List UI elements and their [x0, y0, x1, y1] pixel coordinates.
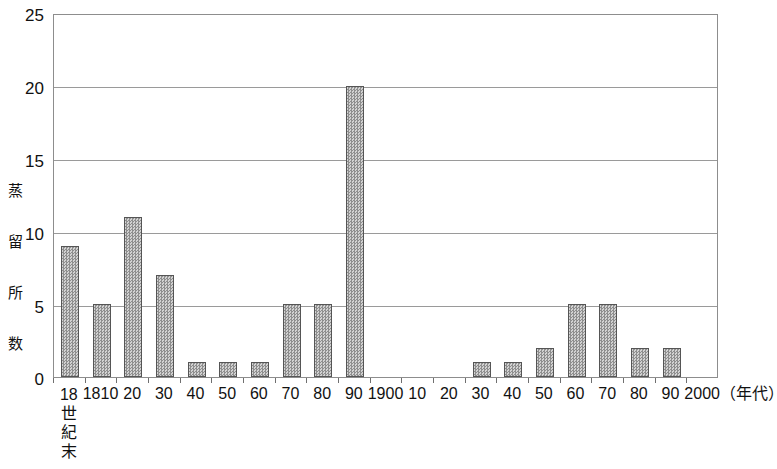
y-axis-tick-label: 25	[4, 7, 44, 24]
x-axis-tick	[401, 378, 402, 383]
bar	[599, 304, 617, 377]
bar	[631, 348, 649, 377]
x-axis-tick-label-line: 末	[46, 442, 92, 461]
x-axis-tick	[433, 378, 434, 383]
x-axis-tick	[528, 378, 529, 383]
x-axis-tick	[243, 378, 244, 383]
bar	[61, 246, 79, 377]
bar	[504, 362, 522, 377]
x-axis-tick	[496, 378, 497, 383]
x-axis-tick	[180, 378, 181, 383]
bar	[93, 304, 111, 377]
x-axis-tick	[306, 378, 307, 383]
x-axis-tick	[623, 378, 624, 383]
x-axis-unit-label: （年代）	[720, 385, 777, 403]
x-axis-tick	[116, 378, 117, 383]
x-axis-tick-label-line: 世	[46, 404, 92, 423]
y-axis-tick-label: 0	[4, 371, 44, 388]
x-axis-tick	[591, 378, 592, 383]
bar	[188, 362, 206, 377]
x-axis-tick	[686, 378, 687, 383]
y-axis-tick-label: 15	[4, 153, 44, 170]
bar	[473, 362, 491, 377]
y-axis-title: 蒸 留 所 数	[4, 148, 26, 386]
bar	[251, 362, 269, 377]
bar	[124, 217, 142, 377]
y-axis-tick-label: 5	[4, 299, 44, 316]
x-axis-tick	[53, 378, 54, 383]
bar	[536, 348, 554, 377]
x-axis-tick	[211, 378, 212, 383]
bar	[156, 275, 174, 377]
y-axis-tick-label: 10	[4, 226, 44, 243]
bar	[219, 362, 237, 377]
bar	[314, 304, 332, 377]
y-axis-title-char: 数	[4, 335, 26, 352]
y-axis-tick-label: 20	[4, 80, 44, 97]
x-axis-tick	[338, 378, 339, 383]
x-axis-tick	[148, 378, 149, 383]
bar	[346, 86, 364, 377]
bar	[663, 348, 681, 377]
x-axis-tick	[560, 378, 561, 383]
y-axis-title-char: 蒸	[4, 182, 26, 199]
x-axis-tick	[655, 378, 656, 383]
bar	[283, 304, 301, 377]
bar-chart: 蒸 留 所 数 25 20 15 10 5 0 18世紀末18102030405…	[0, 0, 777, 469]
x-axis-tick-label: 2000	[679, 385, 725, 403]
bars-layer	[54, 15, 717, 377]
bar	[568, 304, 586, 377]
x-axis-tick	[465, 378, 466, 383]
plot-area	[53, 14, 718, 378]
x-axis-tick	[85, 378, 86, 383]
x-axis-tick-label-line: 紀	[46, 423, 92, 442]
x-axis-tick	[370, 378, 371, 383]
x-axis-tick	[275, 378, 276, 383]
